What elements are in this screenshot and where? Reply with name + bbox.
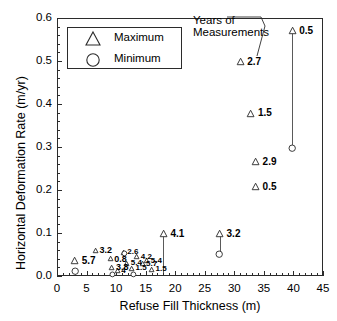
data-point-maximum <box>92 247 99 254</box>
data-point-label: 1.5 <box>258 107 272 118</box>
x-tick-minor <box>128 273 129 276</box>
data-point-maximum <box>246 109 255 118</box>
x-tick-minor <box>104 273 105 276</box>
x-tick-minor <box>252 273 253 276</box>
y-tick-minor <box>57 70 60 71</box>
data-point-label: 0.5 <box>263 181 277 192</box>
triangle-icon <box>82 28 104 49</box>
data-point-label: 1.5 <box>135 263 146 272</box>
x-tick-minor <box>163 273 164 276</box>
x-tick-minor <box>199 273 200 276</box>
data-point-label: 4.1 <box>170 228 184 239</box>
y-tick-major <box>57 18 62 19</box>
x-tick-label: 10 <box>101 282 131 294</box>
data-point-maximum <box>159 229 168 238</box>
data-point-minimum <box>288 144 296 152</box>
x-tick-label: 40 <box>278 282 308 294</box>
x-tick-minor <box>81 273 82 276</box>
data-point-maximum <box>236 57 245 66</box>
data-point-minimum <box>215 250 223 258</box>
y-tick-major <box>57 190 62 191</box>
data-point-maximum <box>70 256 79 265</box>
x-tick-minor <box>140 273 141 276</box>
data-point-maximum <box>288 26 297 35</box>
y-tick-minor <box>57 138 60 139</box>
y-tick-minor <box>57 156 60 157</box>
x-tick-label: 20 <box>160 282 190 294</box>
x-tick-minor <box>193 273 194 276</box>
x-tick-label: 35 <box>249 282 279 294</box>
x-tick-label: 30 <box>219 282 249 294</box>
x-tick-label: 0 <box>42 282 72 294</box>
x-tick-minor <box>152 273 153 276</box>
annotation-line1: Years of <box>193 14 235 27</box>
x-tick-minor <box>228 273 229 276</box>
data-point-minimum <box>109 271 116 278</box>
x-tick-minor <box>282 273 283 276</box>
x-tick-minor <box>92 273 93 276</box>
x-tick-minor <box>317 273 318 276</box>
y-tick-minor <box>57 44 60 45</box>
y-tick-minor <box>57 164 60 165</box>
annotation-line2: Measurements <box>193 26 269 39</box>
y-tick-minor <box>57 52 60 53</box>
data-point-minimum <box>71 267 79 275</box>
x-tick-major <box>205 271 206 276</box>
y-tick-major <box>57 147 62 148</box>
x-tick-label: 45 <box>308 282 337 294</box>
legend: Maximum Minimum <box>67 27 182 69</box>
x-tick-minor <box>211 273 212 276</box>
y-tick-minor <box>57 121 60 122</box>
point-connector-line <box>292 31 293 148</box>
y-tick-minor <box>57 224 60 225</box>
x-tick-minor <box>240 273 241 276</box>
x-tick-major <box>264 271 265 276</box>
legend-label-maximum: Maximum <box>114 31 164 43</box>
y-tick-label: 0.5 <box>20 54 52 66</box>
legend-row-minimum: Minimum <box>68 49 181 70</box>
data-point-maximum <box>251 182 260 191</box>
data-point-maximum <box>107 255 114 262</box>
y-tick-minor <box>57 250 60 251</box>
y-tick-minor <box>57 95 60 96</box>
data-point-label: 0.5 <box>299 25 313 36</box>
chart-figure: 0510152025303540450.00.10.20.30.40.50.6 … <box>0 0 337 321</box>
y-tick-major <box>57 104 62 105</box>
x-tick-major <box>293 271 294 276</box>
y-tick-label: 0.0 <box>20 269 52 281</box>
data-point-label: 2.6 <box>127 247 138 256</box>
y-tick-minor <box>57 267 60 268</box>
y-tick-minor <box>57 78 60 79</box>
x-tick-minor <box>98 273 99 276</box>
x-tick-minor <box>258 273 259 276</box>
y-tick-minor <box>57 173 60 174</box>
circle-icon <box>82 49 104 70</box>
y-tick-minor <box>57 27 60 28</box>
x-tick-major <box>175 271 176 276</box>
x-tick-minor <box>246 273 247 276</box>
data-point-label: 4 <box>121 266 125 275</box>
x-tick-minor <box>217 273 218 276</box>
data-point-label: 3.2 <box>99 245 112 255</box>
y-tick-minor <box>57 130 60 131</box>
data-point-label: 2.9 <box>263 156 277 167</box>
y-tick-minor <box>57 181 60 182</box>
y-tick-minor <box>57 113 60 114</box>
legend-label-minimum: Minimum <box>114 52 161 64</box>
x-tick-label: 5 <box>72 282 102 294</box>
data-point-maximum <box>215 229 224 238</box>
x-tick-minor <box>276 273 277 276</box>
x-tick-major <box>323 271 324 276</box>
x-tick-minor <box>181 273 182 276</box>
data-point-label: 1.5 <box>156 264 167 273</box>
data-point-label: 3.2 <box>227 228 241 239</box>
y-tick-minor <box>57 35 60 36</box>
y-tick-label: 0.6 <box>20 11 52 23</box>
x-tick-minor <box>305 273 306 276</box>
x-tick-minor <box>223 273 224 276</box>
data-point-label: 2.7 <box>247 56 261 67</box>
y-tick-minor <box>57 207 60 208</box>
x-tick-minor <box>157 273 158 276</box>
y-tick-minor <box>57 199 60 200</box>
x-tick-minor <box>169 273 170 276</box>
